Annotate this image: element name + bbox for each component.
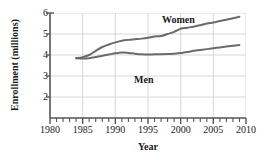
series-line-women [76,17,239,58]
y-tick-label: 4 [34,50,48,60]
x-tick-label: 2010 [228,124,264,135]
x-tick-label: 1980 [32,124,68,135]
vertical-gridlines [83,13,246,118]
x-tick-label: 1990 [97,124,133,135]
x-tick-label: 2005 [195,124,231,135]
y-tick-label: 3 [34,71,48,81]
y-tick-label: 2 [34,92,48,102]
y-axis-tick-labels: 23456 [32,0,48,160]
series-label-men: Men [134,74,153,85]
x-tick-label: 2000 [163,124,199,135]
chart-figure: Enrollment (millions) 23456 WomenMen 198… [0,0,268,160]
series-lines [76,17,239,59]
x-tick-label: 1995 [130,124,166,135]
chart-canvas [50,13,246,118]
x-axis-title: Year [50,141,246,152]
y-axis-title: Enrollment (millions) [8,5,22,125]
x-axis-tick-labels: 1980198519901995200020052010 [50,124,246,138]
y-tick-label: 6 [34,8,48,18]
series-label-women: Women [162,14,195,25]
plot-area [50,13,246,118]
x-tick-label: 1985 [65,124,101,135]
y-tick-label: 5 [34,29,48,39]
